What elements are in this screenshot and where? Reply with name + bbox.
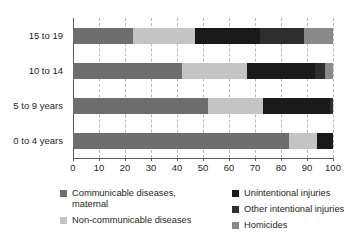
bar-segment [182,63,247,79]
legend-label: Communicable diseases, maternal [72,188,176,210]
x-tick-label: 20 [120,162,131,174]
bar-segment [133,28,195,44]
x-axis: 0102030405060708090100 [73,158,333,178]
bars-container [73,18,333,158]
bar-segment [304,28,333,44]
x-tick-mark [307,158,308,161]
bar-segment [73,98,208,114]
y-axis-label: 0 to 4 years [13,133,63,149]
y-axis-label: 5 to 9 years [13,98,63,114]
x-tick-label: 80 [276,162,287,174]
x-tick-mark [99,158,100,161]
x-tick-label: 100 [325,162,341,174]
bar-segment [263,98,331,114]
x-tick-mark [73,158,74,161]
x-tick-label: 40 [172,162,183,174]
x-tick-mark [333,158,334,161]
stacked-bar-chart: 15 to 1910 to 145 to 9 years0 to 4 years… [0,0,362,247]
legend-column-right: Unintentional injuriesOther intentional … [232,188,362,236]
x-tick-mark [125,158,126,161]
bar-row [73,63,333,79]
legend-swatch-icon [232,222,239,229]
legend-label: Other intentional injuries [244,204,344,215]
x-tick-label: 0 [70,162,75,174]
legend-label: Unintentional injuries [244,188,330,199]
x-tick-label: 90 [302,162,313,174]
x-tick-mark [177,158,178,161]
bar-segment [73,133,289,149]
x-tick-mark [255,158,256,161]
legend-item[interactable]: Communicable diseases, maternal [60,188,235,210]
x-tick-label: 70 [250,162,261,174]
plot-area [73,18,333,158]
x-tick-mark [229,158,230,161]
bar-segment [195,28,260,44]
gridline-100 [333,18,334,158]
bar-row [73,28,333,44]
y-axis-label: 10 to 14 [29,63,63,79]
legend-swatch-icon [232,206,239,213]
bar-segment [73,28,133,44]
legend-item[interactable]: Unintentional injuries [232,188,362,199]
x-tick-label: 60 [224,162,235,174]
legend-label: Non-communicable diseases [72,215,191,226]
legend-item[interactable]: Non-communicable diseases [60,215,235,226]
x-tick-mark [151,158,152,161]
x-tick-label: 50 [198,162,209,174]
x-tick-label: 30 [146,162,157,174]
bar-segment [260,28,304,44]
x-tick-mark [281,158,282,161]
legend-swatch-icon [60,190,67,197]
bar-segment [73,63,182,79]
bar-segment [289,133,318,149]
legend-item[interactable]: Other intentional injuries [232,204,362,215]
y-axis-labels: 15 to 1910 to 145 to 9 years0 to 4 years [0,18,68,158]
bar-row [73,133,333,149]
y-axis-label: 15 to 19 [29,28,63,44]
bar-segment [317,133,333,149]
legend: Communicable diseases, maternalNon-commu… [60,188,360,243]
x-tick-label: 10 [94,162,105,174]
legend-column-left: Communicable diseases, maternalNon-commu… [60,188,235,231]
bar-row [73,98,333,114]
bar-segment [330,98,333,114]
legend-swatch-icon [60,217,67,224]
legend-label: Homicides [244,220,287,231]
bar-segment [247,63,315,79]
x-tick-mark [203,158,204,161]
legend-item[interactable]: Homicides [232,220,362,231]
bar-segment [208,98,263,114]
legend-swatch-icon [232,190,239,197]
bar-segment [315,63,325,79]
bar-segment [325,63,333,79]
